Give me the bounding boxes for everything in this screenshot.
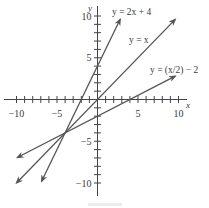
plot-line <box>42 19 121 181</box>
y-tick-label: −10 <box>76 178 92 189</box>
line-equation-label: y = (x/2) − 2 <box>150 65 198 76</box>
x-tick-label: 5 <box>136 108 141 119</box>
y-axis-label: y <box>87 3 92 13</box>
faint-caption <box>88 203 122 206</box>
x-tick-label: −10 <box>9 108 25 119</box>
coordinate-plane-chart: −10−5510 105−5−10 x y y = 2x + 4y = xy =… <box>0 0 209 208</box>
plot-line <box>17 76 175 157</box>
x-tick-label: 10 <box>174 108 184 119</box>
x-tick-label: −5 <box>52 108 63 119</box>
line-equation-label: y = 2x + 4 <box>112 7 151 17</box>
y-tick-label: 5 <box>87 52 92 63</box>
line-labels: y = 2x + 4y = xy = (x/2) − 2 <box>112 7 198 76</box>
x-axis-label: x <box>185 100 190 110</box>
line-equation-label: y = x <box>129 35 149 45</box>
y-tick-label: −5 <box>81 136 92 147</box>
